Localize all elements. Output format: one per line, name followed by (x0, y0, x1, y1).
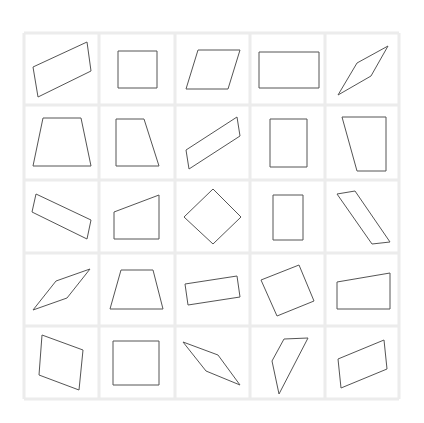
parallelogram-shape (186, 117, 240, 169)
grid-cell-r1-c2 (118, 51, 157, 88)
grid-cell-r2-c5 (342, 117, 386, 171)
grid-cell-r1-c3 (186, 50, 240, 89)
shapes-layer (32, 42, 390, 394)
square-shape (113, 341, 159, 385)
grid-cell-r4-c5 (337, 273, 390, 309)
grid-cell-r3-c1 (32, 194, 91, 239)
grid-cell-r4-c3 (185, 276, 240, 305)
grid-cell-r4-c2 (110, 270, 163, 309)
rhombus-shape (33, 269, 90, 310)
grid-cell-r3-c4 (273, 195, 303, 240)
grid-cell-r3-c5 (337, 191, 390, 244)
rectangle-shape (32, 194, 91, 239)
parallelogram-shape (338, 340, 387, 388)
square-shape (118, 51, 157, 88)
grid-cell-r1-c1 (33, 42, 91, 97)
grid-cell-r1-c4 (259, 52, 319, 88)
grid-cell-r2-c4 (270, 119, 307, 167)
right-trapezoid-shape (114, 195, 159, 239)
right-trapezoid-shape (337, 273, 390, 309)
grid-cell-r5-c5 (338, 340, 387, 388)
rectangle-shape (185, 276, 240, 305)
parallelogram-shape (186, 50, 240, 89)
grid-cell-r3-c3 (184, 189, 241, 244)
grid-cell-r5-c1 (39, 335, 83, 390)
grid-cell-r5-c4 (272, 338, 308, 394)
right-trapezoid-shape (342, 117, 386, 171)
parallelogram-shape (337, 191, 390, 244)
grid-cell-r2-c2 (116, 119, 159, 166)
parallelogram-shape (39, 335, 83, 390)
rectangle-shape (273, 195, 303, 240)
trapezoid-shape (110, 270, 163, 309)
grid-cell-r5-c2 (113, 341, 159, 385)
rectangle-shape (259, 52, 319, 88)
kite-shape (183, 342, 240, 385)
grid-cell-r5-c3 (183, 342, 240, 385)
rhombus-shape (338, 46, 388, 95)
square-shape (184, 189, 241, 244)
right-trapezoid-shape (116, 119, 159, 166)
grid-cell-r1-c5 (338, 46, 388, 95)
grid-cell-r2-c1 (33, 118, 91, 166)
grid-cell-r4-c1 (33, 269, 90, 310)
rectangle-shape (270, 119, 307, 167)
grid-cell-r2-c3 (186, 117, 240, 169)
quadrilateral-shape (272, 338, 308, 394)
grid-cell-r3-c2 (114, 195, 159, 239)
grid-cell-r4-c4 (261, 265, 314, 316)
square-shape (261, 265, 314, 316)
shape-grid-canvas (0, 0, 424, 423)
trapezoid-shape (33, 118, 91, 166)
parallelogram-shape (33, 42, 91, 97)
